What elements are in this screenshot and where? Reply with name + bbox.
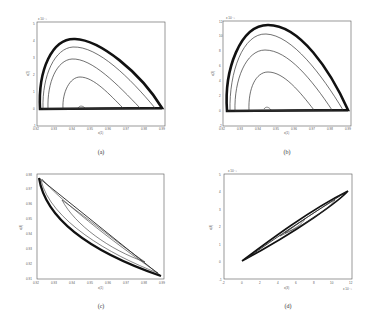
svg-text:5: 5	[219, 173, 221, 177]
svg-text:4: 4	[277, 281, 279, 285]
phase-plot-d: x 10⁻³ x 10⁻³ x(4) x(3) -2024681012 -101…	[0, 0, 373, 327]
svg-text:x 10⁻³: x 10⁻³	[228, 169, 237, 173]
svg-text:0: 0	[241, 281, 243, 285]
caption-d: (d)	[273, 303, 303, 309]
svg-text:8: 8	[313, 281, 315, 285]
svg-text:1: 1	[219, 243, 221, 247]
svg-text:3: 3	[219, 208, 221, 212]
svg-text:12: 12	[349, 281, 353, 285]
svg-text:x 10⁻³: x 10⁻³	[343, 287, 352, 291]
svg-text:2: 2	[259, 281, 261, 285]
svg-text:x(3): x(3)	[284, 286, 289, 290]
svg-text:10: 10	[330, 281, 334, 285]
svg-text:2: 2	[219, 225, 221, 229]
svg-text:4: 4	[219, 190, 221, 194]
svg-text:0: 0	[219, 260, 221, 264]
svg-text:6: 6	[295, 281, 297, 285]
svg-text:-1: -1	[219, 278, 222, 282]
svg-text:x(4): x(4)	[209, 225, 213, 230]
panel-d: x 10⁻³ x 10⁻³ x(4) x(3) -2024681012 -101…	[0, 0, 373, 327]
svg-text:-2: -2	[222, 281, 225, 285]
